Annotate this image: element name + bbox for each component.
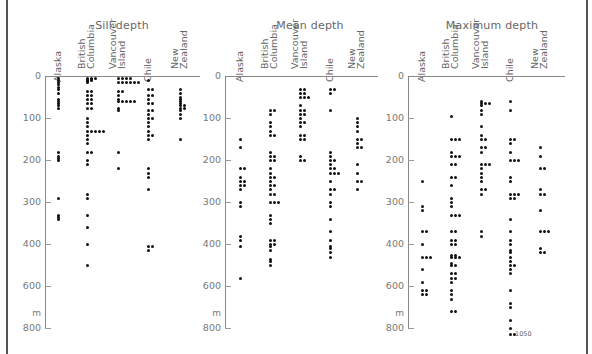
data-point bbox=[147, 134, 150, 137]
y-tick-label: 800 bbox=[11, 322, 41, 333]
data-point bbox=[356, 180, 359, 183]
data-point bbox=[90, 102, 93, 105]
y-tick-label: 400 bbox=[191, 238, 221, 249]
data-point bbox=[454, 214, 457, 217]
data-point bbox=[239, 188, 242, 191]
data-point bbox=[509, 302, 512, 305]
data-point bbox=[86, 117, 89, 120]
data-point bbox=[277, 201, 280, 204]
data-point bbox=[454, 163, 457, 166]
data-point bbox=[480, 125, 483, 128]
data-point bbox=[94, 77, 97, 80]
data-point bbox=[86, 125, 89, 128]
data-point bbox=[509, 289, 512, 292]
data-point bbox=[147, 94, 150, 97]
data-point bbox=[450, 243, 453, 246]
data-point bbox=[57, 218, 60, 221]
y-tick bbox=[45, 160, 51, 161]
data-point bbox=[458, 214, 461, 217]
data-point bbox=[121, 81, 124, 84]
data-point bbox=[421, 293, 424, 296]
data-point bbox=[543, 167, 546, 170]
data-point bbox=[179, 117, 182, 120]
data-point bbox=[269, 214, 272, 217]
data-point bbox=[147, 176, 150, 179]
data-point bbox=[86, 264, 89, 267]
data-point bbox=[129, 81, 132, 84]
data-point bbox=[239, 245, 242, 248]
data-point bbox=[86, 98, 89, 101]
column-label-vancouver-island: Vancouver Island bbox=[108, 17, 126, 69]
data-point bbox=[90, 90, 93, 93]
data-point bbox=[429, 256, 432, 259]
y-tick bbox=[225, 328, 231, 329]
column-label-new-zealand: New Zealand bbox=[347, 17, 365, 69]
data-point bbox=[117, 100, 120, 103]
data-point bbox=[450, 272, 453, 275]
column-label-british-columbia: British Columbia bbox=[260, 17, 278, 69]
data-point bbox=[484, 163, 487, 166]
data-point bbox=[125, 100, 128, 103]
data-point bbox=[269, 172, 272, 175]
left-frame-border bbox=[6, 0, 8, 354]
data-point bbox=[509, 218, 512, 221]
data-point bbox=[273, 184, 276, 187]
data-point bbox=[356, 172, 359, 175]
data-point bbox=[57, 92, 60, 95]
data-point bbox=[273, 109, 276, 112]
data-point bbox=[517, 159, 520, 162]
data-point bbox=[86, 197, 89, 200]
data-point bbox=[509, 268, 512, 271]
data-point bbox=[273, 243, 276, 246]
data-point bbox=[454, 155, 457, 158]
data-point bbox=[86, 151, 89, 154]
data-point bbox=[299, 117, 302, 120]
data-point bbox=[239, 205, 242, 208]
data-point bbox=[450, 201, 453, 204]
data-point bbox=[147, 188, 150, 191]
data-point bbox=[509, 230, 512, 233]
data-point bbox=[151, 134, 154, 137]
data-point bbox=[86, 138, 89, 141]
y-tick-label: 200 bbox=[374, 154, 404, 165]
data-point bbox=[329, 188, 332, 191]
data-point bbox=[94, 130, 97, 133]
data-point bbox=[329, 180, 332, 183]
data-point bbox=[329, 172, 332, 175]
data-point bbox=[329, 256, 332, 259]
data-point bbox=[90, 107, 93, 110]
y-tick-label: 100 bbox=[191, 112, 221, 123]
data-point bbox=[509, 151, 512, 154]
data-point bbox=[454, 239, 457, 242]
data-point bbox=[539, 146, 542, 149]
data-point bbox=[454, 310, 457, 313]
data-point bbox=[450, 230, 453, 233]
data-point bbox=[179, 138, 182, 141]
data-point bbox=[454, 277, 457, 280]
y-tick bbox=[225, 286, 231, 287]
data-point bbox=[509, 109, 512, 112]
data-point bbox=[269, 260, 272, 263]
data-point bbox=[117, 109, 120, 112]
data-point bbox=[90, 98, 93, 101]
data-point bbox=[539, 251, 542, 254]
data-point bbox=[269, 218, 272, 221]
data-point bbox=[137, 81, 140, 84]
data-point bbox=[539, 209, 542, 212]
data-point bbox=[329, 159, 332, 162]
data-point bbox=[273, 134, 276, 137]
data-point bbox=[539, 193, 542, 196]
data-point bbox=[421, 268, 424, 271]
data-point bbox=[86, 159, 89, 162]
data-point bbox=[151, 245, 154, 248]
data-point bbox=[243, 184, 246, 187]
data-point bbox=[450, 184, 453, 187]
data-point bbox=[480, 113, 483, 116]
data-point bbox=[450, 205, 453, 208]
data-point bbox=[86, 142, 89, 145]
data-point bbox=[480, 167, 483, 170]
data-point bbox=[129, 100, 132, 103]
data-point bbox=[333, 188, 336, 191]
data-point bbox=[509, 251, 512, 254]
data-point bbox=[425, 293, 428, 296]
